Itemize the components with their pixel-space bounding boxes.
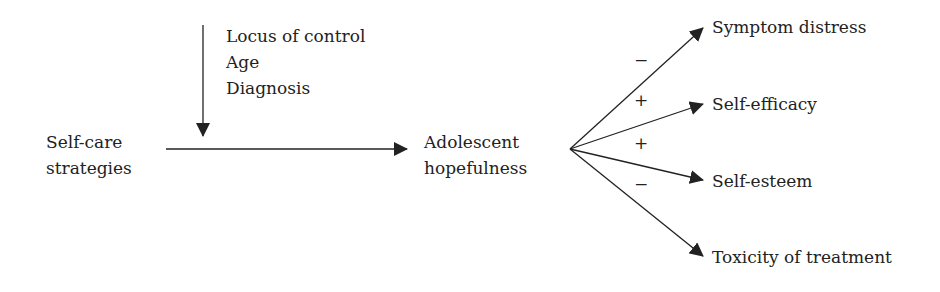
sign-efficacy: +: [634, 92, 648, 109]
moderator-locus: Locus of control: [226, 24, 365, 49]
sign-symptom: −: [634, 52, 648, 69]
sign-esteem: +: [634, 135, 648, 152]
arrow-symptom: [570, 28, 703, 149]
moderator-age: Age: [226, 50, 259, 75]
mediator-line2: hopefulness: [424, 156, 527, 181]
moderator-diagnosis: Diagnosis: [226, 76, 310, 101]
outcome-toxicity: Toxicity of treatment: [712, 245, 892, 270]
source-line1: Self-care: [46, 130, 122, 155]
outcome-efficacy: Self-efficacy: [712, 92, 817, 117]
mediator-line1: Adolescent: [424, 130, 519, 155]
outcome-esteem: Self-esteem: [712, 169, 812, 194]
outcome-symptom: Symptom distress: [712, 15, 866, 40]
sign-toxicity: −: [634, 176, 648, 193]
source-line2: strategies: [46, 156, 132, 181]
